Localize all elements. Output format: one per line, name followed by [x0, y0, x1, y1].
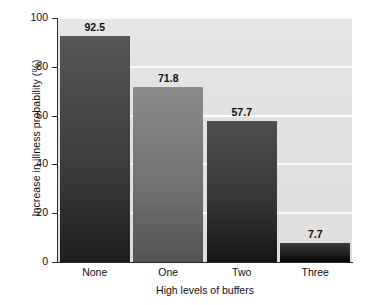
y-tick-label: 100	[0, 11, 48, 23]
plot-area: 92.571.857.77.7	[58, 18, 352, 262]
bar-value-label: 57.7	[232, 106, 252, 118]
x-tick-label: None	[55, 266, 135, 278]
gridline	[58, 17, 352, 19]
bar: 57.7	[207, 121, 277, 262]
bar-fill	[133, 87, 203, 262]
bar: 71.8	[133, 87, 203, 262]
bar: 7.7	[280, 243, 350, 262]
y-tick-mark	[52, 262, 57, 263]
bar-fill	[60, 36, 130, 262]
x-tick-label: One	[128, 266, 208, 278]
x-axis-line	[57, 262, 353, 263]
bar-value-label: 71.8	[158, 72, 178, 84]
bar: 92.5	[60, 36, 130, 262]
bar-value-label: 7.7	[308, 228, 323, 240]
bar-chart-figure: Increase in illness probability (%) 0204…	[0, 0, 372, 305]
y-tick-label: 0	[0, 255, 48, 267]
y-tick-mark	[52, 67, 57, 68]
y-tick-label: 60	[0, 109, 48, 121]
x-tick-label: Two	[202, 266, 282, 278]
y-tick-mark	[52, 116, 57, 117]
y-tick-mark	[52, 164, 57, 165]
bar-value-label: 92.5	[85, 21, 105, 33]
y-tick-label: 20	[0, 206, 48, 218]
y-tick-mark	[52, 18, 57, 19]
x-axis-title: High levels of buffers	[58, 284, 352, 296]
y-tick-mark	[52, 213, 57, 214]
y-tick-label: 40	[0, 157, 48, 169]
bar-fill	[207, 121, 277, 262]
x-tick-label: Three	[275, 266, 355, 278]
y-axis-title: Increase in illness probability (%)	[30, 18, 42, 258]
y-tick-label: 80	[0, 60, 48, 72]
bar-fill	[280, 243, 350, 262]
